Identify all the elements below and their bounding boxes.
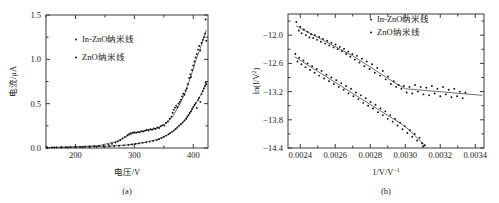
data-point-series-1 [123, 144, 125, 146]
data-point-series-0 [111, 143, 113, 145]
x-tick-label: 0.0028 [359, 150, 382, 160]
data-point-series-1 [330, 77, 332, 79]
data-point-series-1 [314, 72, 316, 74]
data-point-series-0 [156, 126, 158, 128]
data-point-series-0 [201, 42, 203, 44]
data-point-series-0 [65, 146, 67, 148]
data-point-series-1 [394, 118, 396, 120]
fit-line-series-1 [47, 83, 206, 148]
data-point-series-0 [465, 92, 467, 94]
chart-panel-b: 0.00240.00260.00280.00300.00320.0034−12.… [249, 0, 499, 203]
fit-line-series-1 [295, 57, 425, 145]
data-point-series-0 [349, 56, 351, 58]
data-point-series-0 [305, 34, 307, 36]
data-point-series-0 [132, 132, 134, 134]
data-point-series-0 [356, 55, 358, 57]
data-point-series-0 [425, 87, 427, 89]
data-point-series-0 [387, 76, 389, 78]
data-point-series-0 [376, 67, 378, 69]
data-point-series-1 [131, 144, 133, 146]
data-point-series-1 [171, 131, 173, 133]
data-point-series-1 [335, 79, 337, 81]
data-point-series-1 [348, 93, 350, 95]
data-point-series-0 [445, 93, 447, 95]
data-point-series-0 [115, 142, 117, 144]
x-tick-label: 400 [187, 150, 200, 160]
data-point-series-1 [163, 136, 165, 138]
y-tick-label: −12.0 [263, 30, 283, 40]
data-point-series-1 [138, 142, 140, 144]
data-point-series-0 [122, 137, 124, 139]
data-point-series-0 [199, 50, 201, 52]
data-point-series-1 [178, 125, 180, 127]
data-point-series-1 [46, 147, 48, 149]
legend-marker-1 [370, 32, 372, 34]
data-point-series-1 [158, 138, 160, 140]
data-point-series-1 [118, 145, 120, 147]
data-point-series-1 [185, 118, 187, 120]
data-point-series-1 [328, 80, 330, 82]
data-point-series-0 [369, 68, 371, 70]
data-point-series-1 [145, 141, 147, 143]
legend-label-1: ZnO纳米线 [82, 52, 125, 62]
data-point-series-1 [197, 99, 199, 101]
data-point-series-1 [196, 107, 198, 109]
data-point-series-0 [190, 76, 192, 78]
data-point-series-0 [70, 146, 72, 148]
data-point-series-0 [142, 131, 144, 133]
data-point-series-0 [186, 87, 188, 89]
chart-svg-a: 2003004000.00.51.01.5电流/μA电压/V(a)In-ZnO纳… [0, 0, 250, 203]
data-point-series-1 [173, 130, 175, 132]
data-point-series-0 [314, 34, 316, 36]
data-point-series-0 [303, 29, 305, 31]
data-point-series-1 [128, 144, 130, 146]
data-point-series-1 [75, 146, 77, 148]
data-point-series-0 [169, 118, 171, 120]
data-point-series-1 [195, 102, 197, 104]
data-point-series-1 [192, 106, 194, 108]
data-point-series-1 [190, 110, 192, 112]
data-point-series-1 [338, 86, 340, 88]
data-point-series-0 [318, 36, 320, 38]
data-point-series-1 [135, 143, 137, 145]
data-point-series-1 [300, 63, 302, 65]
data-point-series-0 [374, 72, 376, 74]
data-point-series-0 [406, 92, 408, 94]
data-point-series-1 [183, 120, 185, 122]
data-point-series-1 [142, 142, 144, 144]
data-point-series-0 [93, 145, 95, 147]
data-point-series-1 [316, 68, 318, 70]
data-point-series-0 [400, 88, 402, 90]
data-point-series-0 [453, 88, 455, 90]
data-point-series-0 [345, 53, 347, 55]
data-point-series-1 [189, 112, 191, 114]
data-point-series-0 [308, 37, 310, 39]
data-point-series-1 [375, 104, 377, 106]
data-point-series-0 [148, 129, 150, 131]
y-axis-title: ln(I/V2) [251, 68, 261, 95]
data-point-series-1 [402, 128, 404, 130]
data-point-series-0 [442, 86, 444, 88]
data-point-series-1 [182, 122, 184, 124]
legend-label-0: In-ZnO纳米线 [82, 34, 135, 44]
data-point-series-0 [202, 39, 204, 41]
data-point-series-1 [404, 125, 406, 127]
y-tick-label: 0.5 [30, 99, 41, 109]
data-point-series-0 [139, 131, 141, 133]
data-point-series-1 [379, 108, 381, 110]
data-point-series-0 [195, 57, 197, 59]
data-point-series-0 [124, 136, 126, 138]
data-point-series-1 [357, 98, 359, 100]
data-point-series-1 [365, 97, 367, 99]
data-point-series-0 [358, 61, 360, 63]
data-point-series-0 [107, 144, 109, 146]
data-point-series-0 [183, 94, 185, 96]
data-point-series-0 [414, 84, 416, 86]
data-point-series-1 [298, 57, 300, 59]
data-point-series-0 [403, 85, 405, 87]
data-point-series-0 [326, 40, 328, 42]
data-point-series-0 [363, 65, 365, 67]
data-point-series-0 [187, 83, 189, 85]
data-point-series-1 [96, 146, 98, 148]
data-point-series-0 [162, 124, 164, 126]
